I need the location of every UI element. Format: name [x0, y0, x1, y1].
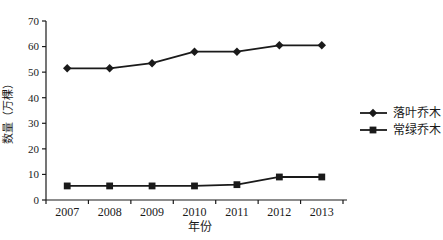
data-point-marker-1	[276, 174, 283, 181]
x-axis-tick-label: 2010	[183, 205, 207, 219]
line-chart-figure: 0102030405060702007200820092010201120122…	[0, 0, 443, 240]
y-axis-tick-label: 30	[28, 117, 40, 129]
data-point-marker-1	[318, 174, 325, 181]
data-point-marker-1	[234, 181, 241, 188]
y-axis-tick-label: 20	[28, 143, 40, 155]
y-axis-tick-label: 70	[28, 15, 40, 27]
legend-label-0: 落叶乔木	[393, 106, 441, 120]
tree-count-line-chart: 0102030405060702007200820092010201120122…	[0, 0, 443, 240]
x-axis-tick-label: 2012	[267, 205, 291, 219]
y-axis-tick-label: 40	[28, 92, 40, 104]
x-axis-tick-label: 2009	[140, 205, 164, 219]
x-axis-tick-label: 2007	[55, 205, 79, 219]
data-point-marker-1	[64, 183, 71, 190]
x-axis-tick-label: 2013	[310, 205, 334, 219]
y-axis-tick-label: 0	[34, 194, 40, 206]
y-axis-tick-label: 10	[28, 168, 40, 180]
y-axis-title: 数量（万棵）	[1, 78, 14, 144]
data-point-marker-1	[191, 183, 198, 190]
y-axis-tick-label: 50	[28, 66, 40, 78]
data-point-marker-1	[149, 183, 156, 190]
chart-background	[0, 0, 443, 240]
legend-square-icon	[370, 127, 377, 134]
x-axis-tick-label: 2008	[98, 205, 122, 219]
y-axis-tick-label: 60	[28, 40, 40, 52]
data-point-marker-1	[106, 183, 113, 190]
x-axis-title: 年份	[188, 220, 212, 234]
x-axis-tick-label: 2011	[225, 205, 249, 219]
legend-label-1: 常绿乔木	[393, 122, 441, 137]
